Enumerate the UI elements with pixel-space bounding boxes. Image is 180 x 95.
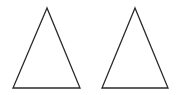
triangles-diagram xyxy=(0,0,180,95)
right-triangle xyxy=(102,8,168,88)
left-triangle xyxy=(13,8,80,88)
